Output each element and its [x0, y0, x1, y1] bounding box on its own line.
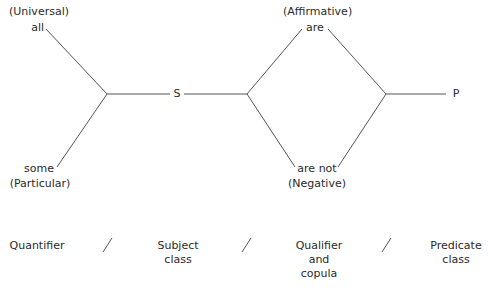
caption-line: class — [425, 253, 487, 267]
negative-branch-right — [338, 94, 386, 167]
universal-branch — [46, 29, 107, 94]
separator-3 — [382, 238, 391, 252]
caption-qualifier-copula: Qualifier and copula — [289, 239, 349, 281]
negative-word: are not — [294, 162, 340, 176]
caption-line: and — [289, 253, 349, 267]
affirmative-branch-left — [247, 29, 302, 94]
affirmative-label: (Affirmative) — [283, 5, 347, 19]
separator-2 — [242, 238, 251, 252]
particular-word: some — [14, 162, 54, 176]
subject-node: S — [170, 87, 184, 101]
caption-line: Subject — [148, 239, 208, 253]
negative-branch-left — [247, 94, 295, 167]
particular-branch — [57, 94, 107, 167]
affirmative-word: are — [302, 21, 328, 35]
caption-line: Predicate — [425, 239, 487, 253]
predicate-node: P — [449, 87, 463, 101]
caption-predicate-class: Predicate class — [425, 239, 487, 267]
caption-line: class — [148, 253, 208, 267]
particular-label: (Particular) — [6, 177, 74, 191]
diagram-lines — [0, 0, 488, 290]
caption-quantifier: Quantifier — [4, 239, 70, 253]
universal-word: all — [20, 21, 44, 35]
caption-line: Quantifier — [4, 239, 70, 253]
caption-line: Qualifier — [289, 239, 349, 253]
affirmative-branch-right — [328, 29, 386, 94]
caption-subject-class: Subject class — [148, 239, 208, 267]
universal-label: (Universal) — [6, 5, 72, 19]
negative-label: (Negative) — [285, 177, 349, 191]
separator-1 — [103, 238, 112, 252]
caption-line: copula — [289, 267, 349, 281]
